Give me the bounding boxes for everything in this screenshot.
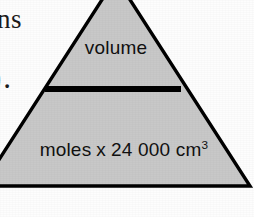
numerator-label: volume bbox=[0, 38, 232, 57]
triangle-shape bbox=[0, 0, 254, 217]
denominator-operator: x bbox=[96, 139, 106, 160]
denominator-constant-value: 24 000 bbox=[111, 139, 170, 160]
scanned-figure-page: ns ). volume molesx24 000 cm3 bbox=[0, 0, 254, 217]
denominator-unit-text: cm bbox=[176, 139, 202, 160]
denominator-unit-exponent: 3 bbox=[202, 138, 209, 151]
formula-triangle-figure: volume molesx24 000 cm3 bbox=[0, 0, 254, 217]
denominator-quantity-label: moles bbox=[40, 139, 92, 160]
denominator-label: molesx24 000 cm3 bbox=[0, 140, 248, 159]
